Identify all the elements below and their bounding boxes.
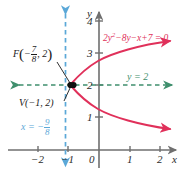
directrix-label: x = −98 [21, 118, 50, 137]
directrix-denominator: 8 [44, 127, 51, 137]
xtick-label--2: −2 [31, 154, 44, 165]
focus-x-sign: − [24, 48, 31, 59]
directrix-numerator: 9 [44, 118, 51, 127]
vertex-label: V(−1, 2) [19, 98, 54, 108]
focus-leader-line [57, 62, 70, 83]
parabola-figure: y x −2 −1 0 1 2 1 2 3 4 2y2−8y−x+7 = 0 y… [0, 0, 191, 175]
ytick-label-4: 4 [87, 16, 93, 27]
ytick-label-2: 2 [87, 80, 93, 91]
focus-paren-close: ) [47, 46, 52, 62]
focus-x-fraction: 78 [31, 45, 38, 64]
focus-paren-open: ( [19, 46, 24, 62]
xtick-label-1: 1 [127, 154, 133, 165]
directrix-fraction: 98 [44, 118, 51, 137]
equation-label: 2y2−8y−x+7 = 0 [103, 34, 168, 44]
ytick-label-3: 3 [87, 48, 93, 59]
xtick-label-0: 0 [89, 154, 95, 165]
y-axis [95, 12, 103, 168]
equation-rest: −8y−x+7 = 0 [115, 33, 168, 43]
axis-of-symmetry-label: y = 2 [127, 72, 148, 82]
xtick-label-2: 2 [157, 154, 163, 165]
xtick-label--1: −1 [61, 154, 74, 165]
vertex-point-marker [67, 82, 73, 88]
ytick-label-1: 1 [87, 112, 93, 123]
x-axis-label: x [172, 154, 177, 165]
directrix-label-prefix: x = − [21, 121, 44, 132]
plot-canvas [0, 0, 191, 175]
equation-lead: 2y [103, 33, 112, 43]
focus-x-numerator: 7 [31, 45, 38, 54]
focus-x-denominator: 8 [31, 54, 38, 64]
focus-label: F(−78, 2) [13, 45, 52, 64]
x-axis [8, 146, 176, 152]
